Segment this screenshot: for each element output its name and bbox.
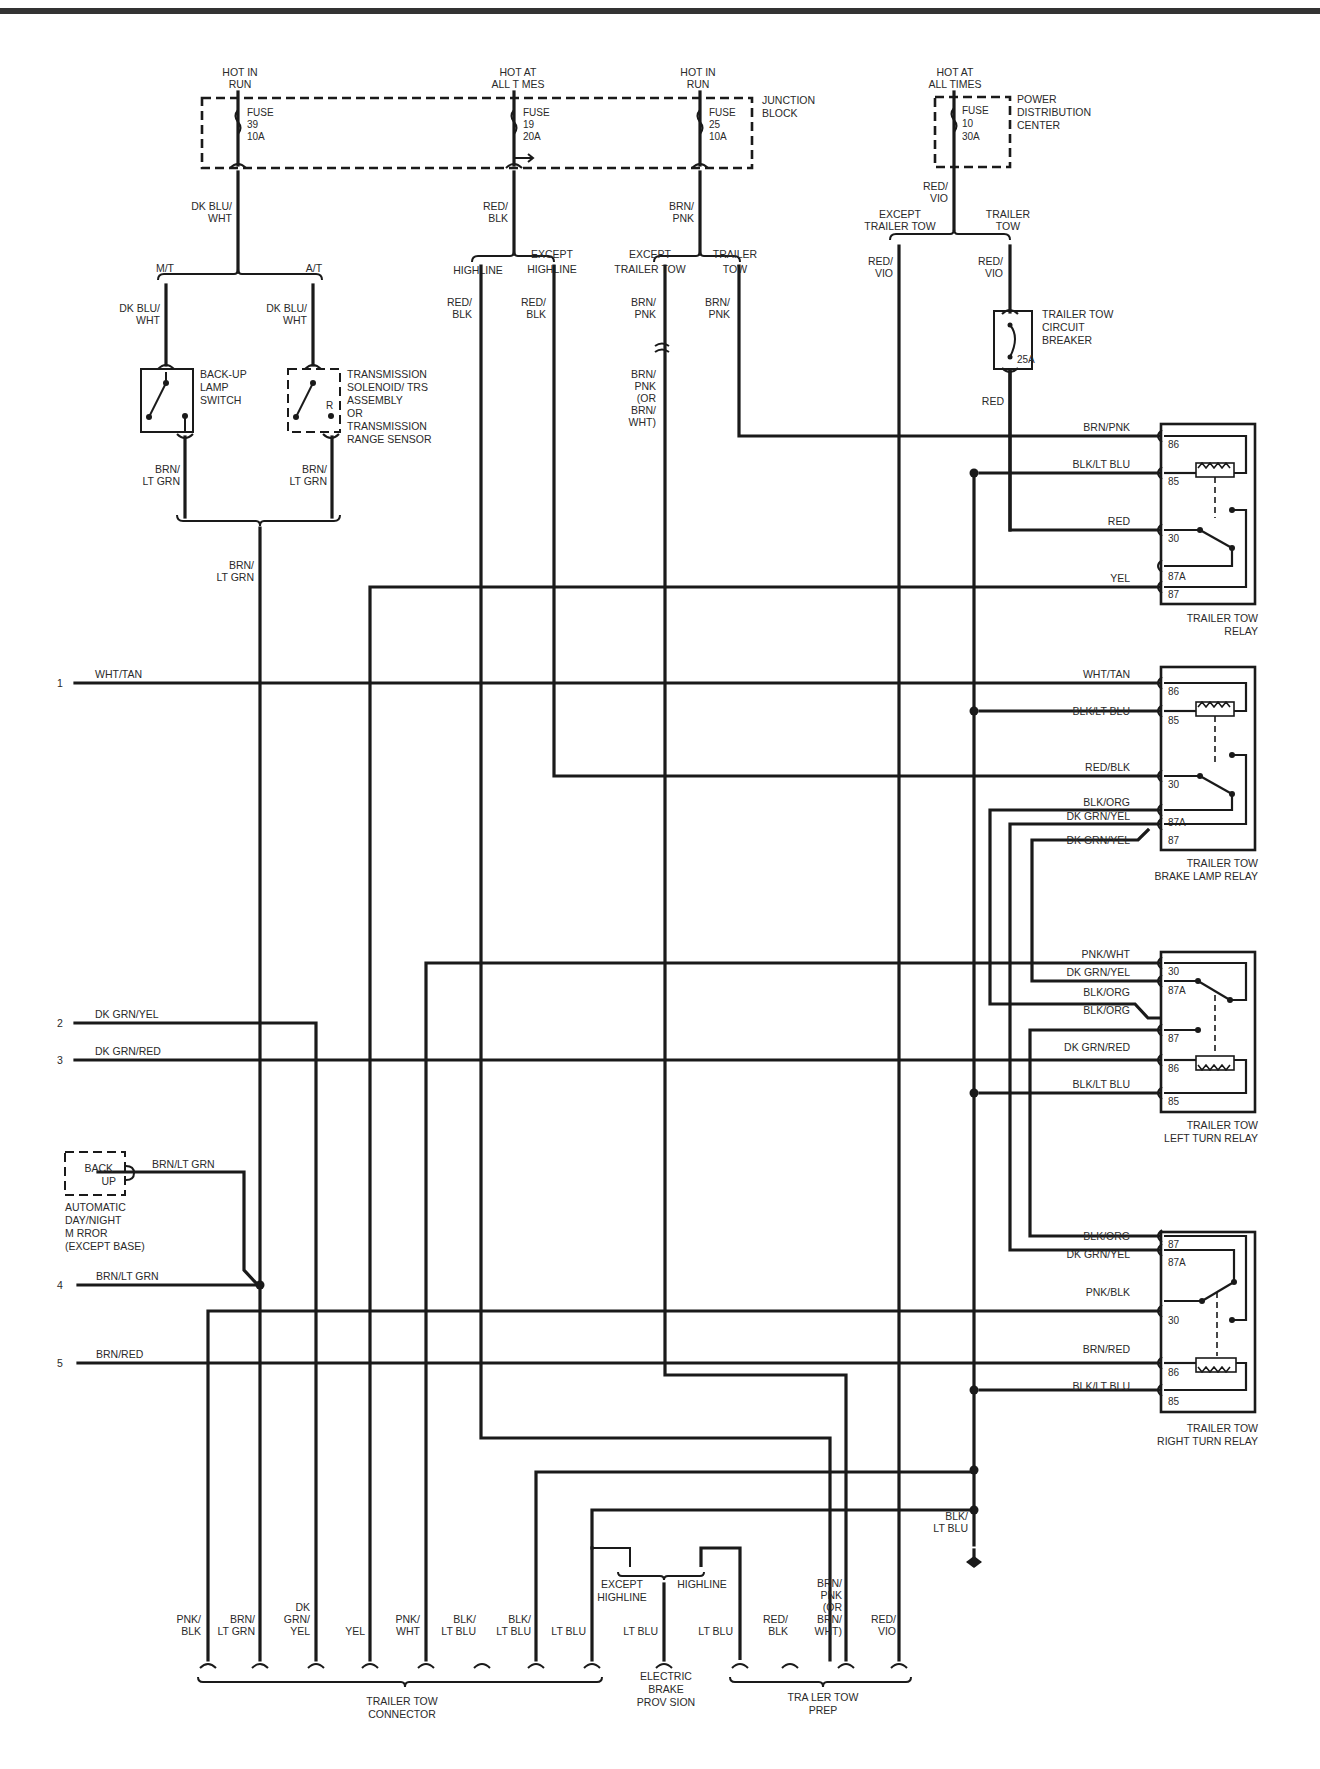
trailer-tow-relay: 86 85 30 87A 87 [1158, 424, 1255, 604]
wire-label: DK BLU/ [191, 200, 232, 212]
svg-text:30: 30 [1168, 1315, 1180, 1326]
wire-label: RED [1108, 515, 1131, 527]
wire-label: PNK [708, 308, 730, 320]
wire-label: RED/ [978, 255, 1003, 267]
branch-label: EXCEPT [879, 208, 922, 220]
svg-text:85: 85 [1168, 715, 1180, 726]
branch-label: A/T [306, 262, 323, 274]
wire-label: LT GRN [289, 475, 327, 487]
wire-label: RED/ [868, 255, 893, 267]
fuse25-supply-2: RUN [687, 78, 710, 90]
svg-text:R: R [326, 400, 333, 411]
svg-text:86: 86 [1168, 439, 1180, 450]
svg-text:86: 86 [1168, 1063, 1180, 1074]
svg-text:BRN/: BRN/ [817, 1613, 842, 1625]
relay-name: RELAY [1224, 625, 1258, 637]
transmission-branch [158, 269, 322, 280]
svg-text:10A: 10A [709, 131, 727, 142]
wire-label: VIO [985, 267, 1003, 279]
switch-label: LAMP [200, 381, 229, 393]
fuse-19: FUSE 19 20A [506, 92, 550, 168]
svg-text:87: 87 [1168, 835, 1180, 846]
pdc-label-1: POWER [1017, 93, 1057, 105]
input-5-wire: BRN/RED [96, 1348, 144, 1360]
svg-text:RED/: RED/ [871, 1613, 896, 1625]
wire-label: LT GRN [216, 571, 254, 583]
wire-network [75, 246, 1160, 1660]
svg-text:FUSE: FUSE [247, 107, 274, 118]
svg-text:87A: 87A [1168, 571, 1186, 582]
connector-label: CONNECTOR [368, 1708, 436, 1720]
wire-label: BLK [488, 212, 508, 224]
svg-text:BLK: BLK [181, 1625, 201, 1637]
sensor-label: TRANSMISSION [347, 420, 427, 432]
fuse25-supply-1: HOT IN [680, 66, 715, 78]
svg-text:30: 30 [1168, 779, 1180, 790]
sensor-label: OR [347, 407, 363, 419]
wire-label: BRN/ [669, 200, 694, 212]
svg-text:PNK/: PNK/ [395, 1613, 420, 1625]
input-1-number: 1 [57, 677, 63, 689]
branch-label: EXCEPT [601, 1578, 644, 1590]
relay-name: TRAILER TOW [1187, 857, 1258, 869]
svg-text:VIO: VIO [878, 1625, 896, 1637]
wire-label: BRN/ [631, 404, 656, 416]
input-1-wire: WHT/TAN [95, 668, 142, 680]
svg-text:FUSE: FUSE [709, 107, 736, 118]
wire-label: BLK/ORG [1083, 796, 1130, 808]
branch-label: TRAILER [713, 248, 758, 260]
branch-label: EXCEPT [531, 248, 574, 260]
relay-name: TRAILER TOW [1187, 1422, 1258, 1434]
circuit-breaker: 25A [994, 246, 1035, 530]
svg-text:BRN/: BRN/ [230, 1613, 255, 1625]
svg-text:PNK/: PNK/ [176, 1613, 201, 1625]
connector-label: TRAILER TOW [366, 1695, 437, 1707]
branch-label: TRAILER TOW [864, 220, 935, 232]
relay-name: BRAKE LAMP RELAY [1155, 870, 1259, 882]
wire-label: PNK [634, 380, 656, 392]
wire-label: BRN/ [705, 296, 730, 308]
mirror-label: (EXCEPT BASE) [65, 1240, 145, 1252]
svg-text:87A: 87A [1168, 817, 1186, 828]
input-2-number: 2 [57, 1017, 63, 1029]
svg-text:LT BLU: LT BLU [496, 1625, 531, 1637]
svg-text:85: 85 [1168, 476, 1180, 487]
wire-label: BRN/ [229, 559, 254, 571]
svg-text:LT BLU: LT BLU [441, 1625, 476, 1637]
wire-label: BRN/ [155, 463, 180, 475]
input-3-number: 3 [57, 1054, 63, 1066]
left-turn-relay: 30 87A 87 86 85 [1158, 952, 1255, 1112]
ground-fanout [536, 1472, 970, 1660]
branch-label: EXCEPT [629, 248, 672, 260]
wire-label: DK GRN/YEL [1066, 834, 1130, 846]
trailer-tow-connector-bracket [198, 1677, 602, 1687]
fuse10-supply-1: HOT AT [937, 66, 975, 78]
wire-label: YEL [1110, 572, 1130, 584]
svg-text:25A: 25A [1017, 354, 1035, 365]
wire-label: BLK/LT BLU [1073, 1078, 1130, 1090]
svg-text:LT BLU: LT BLU [698, 1625, 733, 1637]
wire-label: WHT/TAN [1083, 668, 1130, 680]
ground-wire-label: BLK/ [945, 1510, 968, 1522]
wire-label: WHT [283, 314, 307, 326]
svg-text:20A: 20A [523, 131, 541, 142]
right-turn-relay: 87 87A 30 86 85 [1158, 1230, 1255, 1412]
svg-text:39: 39 [247, 119, 259, 130]
svg-text:87: 87 [1168, 589, 1180, 600]
svg-text:(OR: (OR [823, 1601, 843, 1613]
trailer-tow-prep-bracket [730, 1677, 911, 1687]
wire-label: BRN/RED [1083, 1343, 1131, 1355]
wire-label: BLK [526, 308, 546, 320]
svg-text:87: 87 [1168, 1239, 1180, 1250]
svg-text:30: 30 [1168, 533, 1180, 544]
svg-text:86: 86 [1168, 686, 1180, 697]
wire-label: RED/ [521, 296, 546, 308]
svg-text:BLK: BLK [768, 1625, 788, 1637]
wire-label: BLK/LT BLU [1073, 458, 1130, 470]
svg-text:WHT: WHT [396, 1625, 420, 1637]
svg-text:RED/: RED/ [763, 1613, 788, 1625]
branch-label: TRAILER [986, 208, 1031, 220]
wire-label: BRN/ [302, 463, 327, 475]
switch-label: BACK-UP [200, 368, 247, 380]
wire-label: DK BLU/ [119, 302, 160, 314]
